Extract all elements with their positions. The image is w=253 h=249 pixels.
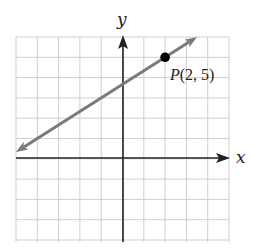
coordinate-plane: x y P(2, 5)	[0, 0, 253, 249]
point-label: P(2, 5)	[169, 66, 214, 84]
plot-line	[16, 37, 197, 152]
y-axis-label: y	[116, 9, 127, 29]
point-p	[160, 53, 170, 63]
x-axis-label: x	[236, 147, 246, 167]
